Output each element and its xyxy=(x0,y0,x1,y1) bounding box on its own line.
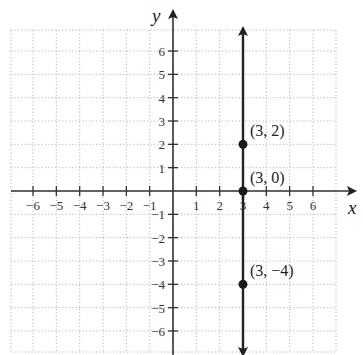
y-tick-label: −2 xyxy=(151,231,165,246)
y-tick-label: 5 xyxy=(159,67,166,82)
x-tick-label: 4 xyxy=(263,198,270,213)
y-tick-label: 3 xyxy=(159,114,166,129)
x-tick-label: 6 xyxy=(310,198,317,213)
point-marker xyxy=(238,187,247,196)
x-tick-label: −5 xyxy=(49,198,63,213)
x-tick-label: −3 xyxy=(96,198,110,213)
y-axis-label: y xyxy=(150,5,161,26)
y-tick-label: −5 xyxy=(151,301,165,316)
point-label: (3, −4) xyxy=(250,262,294,280)
x-tick-label: 5 xyxy=(286,198,293,213)
y-tick-label: 6 xyxy=(159,44,166,59)
point-label: (3, 0) xyxy=(250,169,285,187)
y-tick-label: 1 xyxy=(159,161,166,176)
x-tick-label: 2 xyxy=(216,198,223,213)
point-label: (3, 2) xyxy=(250,122,285,140)
y-tick-label: 2 xyxy=(159,137,166,152)
x-tick-label: 1 xyxy=(193,198,200,213)
y-tick-label: −1 xyxy=(151,207,165,222)
x-tick-label: −2 xyxy=(119,198,133,213)
point-marker xyxy=(238,140,247,149)
axes xyxy=(11,14,352,355)
x-axis-label: x xyxy=(347,197,357,218)
y-tick-label: −6 xyxy=(151,324,165,339)
x-tick-label: −4 xyxy=(73,198,87,213)
y-tick-label: −3 xyxy=(151,254,165,269)
x-tick-label: −6 xyxy=(26,198,40,213)
coordinate-plane: −6−5−4−3−2−1123456−6−5−4−3−2−1123456 (3,… xyxy=(0,0,363,355)
y-tick-label: 4 xyxy=(159,91,166,106)
y-tick-label: −4 xyxy=(151,277,165,292)
point-marker xyxy=(238,280,247,289)
